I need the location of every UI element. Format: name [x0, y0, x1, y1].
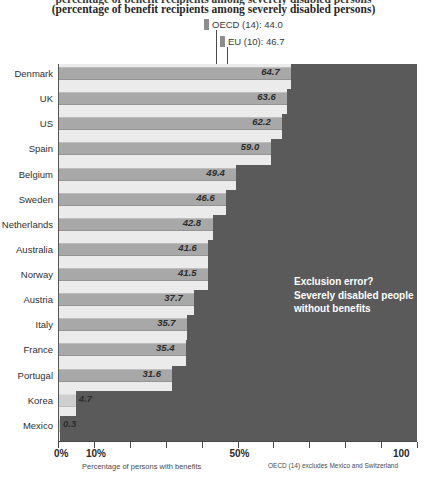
- x-axis: [58, 441, 417, 447]
- bar: [59, 92, 287, 105]
- reference-label-oecd-text: OECD (14): 44.0: [212, 19, 283, 30]
- bar-value-label: 64.7: [261, 66, 280, 77]
- category-label-australia: Australia: [0, 244, 53, 255]
- bar-value-label: 46.6: [196, 192, 215, 203]
- bar-value-label: 4.7: [79, 393, 92, 404]
- category-label-france: France: [0, 344, 53, 355]
- category-label-us: US: [0, 118, 53, 129]
- bar-row: 62.2: [59, 114, 417, 139]
- category-label-portugal: Portugal: [0, 370, 53, 381]
- bar-row: 59.0: [59, 139, 417, 164]
- bar: [59, 117, 282, 130]
- chart-subtitle: (percentage of benefit recipients among …: [0, 3, 427, 15]
- reference-label-eu-text: EU (10): 46.7: [228, 36, 285, 47]
- bar-row: 63.6: [59, 89, 417, 114]
- bar-value-label: 63.6: [257, 91, 276, 102]
- category-label-italy: Italy: [0, 319, 53, 330]
- bar-value-label: 42.8: [183, 217, 202, 228]
- category-label-mexico: Mexico: [0, 420, 53, 431]
- x-axis-tick-label: 0%: [54, 448, 68, 459]
- footnote-oecd-note: OECD (14) excludes Mexico and Switzerlan…: [268, 462, 398, 469]
- exclusion-annotation: Exclusion error? Severely disabled peopl…: [294, 275, 424, 316]
- category-label-korea: Korea: [0, 395, 53, 406]
- category-label-belgium: Belgium: [0, 169, 53, 180]
- x-axis-tick: [345, 442, 346, 448]
- bar: [59, 419, 60, 432]
- x-axis-tick: [166, 442, 167, 448]
- bar: [59, 142, 271, 155]
- bar-value-label: 49.4: [206, 167, 225, 178]
- bar-value-label: 59.0: [241, 141, 260, 152]
- x-axis-tick: [417, 442, 418, 448]
- bar-row: 4.7: [59, 391, 417, 416]
- bar-row: 0.3: [59, 416, 417, 441]
- bar: [59, 394, 76, 407]
- bar-value-label: 0.3: [63, 418, 76, 429]
- bar-value-label: 35.7: [157, 317, 176, 328]
- bar-value-label: 41.5: [178, 267, 197, 278]
- category-label-denmark: Denmark: [0, 68, 53, 79]
- category-label-netherlands: Netherlands: [0, 219, 53, 230]
- x-axis-tick: [381, 442, 382, 448]
- category-label-uk: UK: [0, 93, 53, 104]
- x-axis-tick-label: 10%: [86, 448, 106, 459]
- reference-label-eu: EU (10): 46.7: [220, 36, 285, 47]
- bar-row: 31.6: [59, 366, 417, 391]
- bar-value-label: 31.6: [142, 368, 161, 379]
- reference-swatch-eu-icon: [220, 36, 225, 47]
- bar-row: 35.4: [59, 340, 417, 365]
- bar-value-label: 37.7: [164, 292, 183, 303]
- x-axis-tick: [273, 442, 274, 448]
- reference-label-oecd: OECD (14): 44.0: [204, 19, 283, 30]
- category-label-austria: Austria: [0, 294, 53, 305]
- category-label-spain: Spain: [0, 143, 53, 154]
- bar-row: 64.7: [59, 64, 417, 89]
- bar-row: 42.8: [59, 215, 417, 240]
- bar-row: 41.6: [59, 240, 417, 265]
- bar: [59, 67, 291, 80]
- category-label-sweden: Sweden: [0, 194, 53, 205]
- x-axis-tick: [202, 442, 203, 448]
- bar-row: 46.6: [59, 190, 417, 215]
- reference-swatch-oecd-icon: [204, 19, 209, 30]
- chart-plot-area: 64.763.662.259.049.446.642.841.641.537.7…: [58, 64, 417, 441]
- bar-value-label: 35.4: [156, 342, 175, 353]
- footnote-axis-caption: Percentage of persons with benefits: [82, 462, 201, 471]
- bar-value-label: 62.2: [252, 116, 271, 127]
- bar-row: 35.7: [59, 315, 417, 340]
- x-axis-tick-label: 100: [393, 448, 410, 459]
- bar-row: 49.4: [59, 165, 417, 190]
- x-axis-tick-label: 50%: [230, 448, 250, 459]
- bar-value-label: 41.6: [178, 242, 197, 253]
- category-label-norway: Norway: [0, 269, 53, 280]
- x-axis-tick: [130, 442, 131, 448]
- x-axis-tick: [309, 442, 310, 448]
